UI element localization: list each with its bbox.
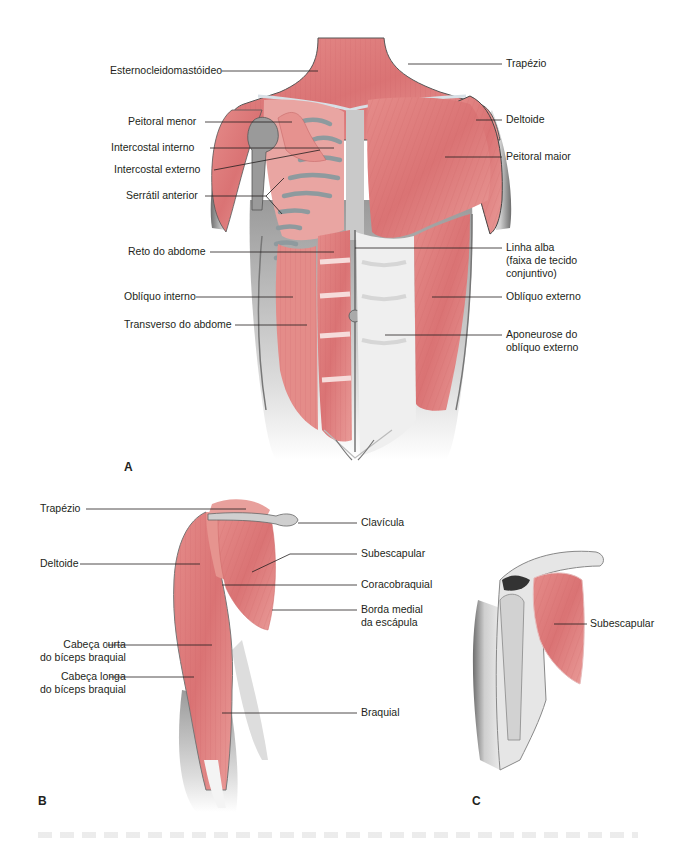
torso-figure — [211, 38, 511, 460]
label-borda-medial-line-2: da escápula — [361, 616, 423, 629]
label-borda-medial-escapula: Borda medial da escápula — [361, 603, 423, 629]
label-esternocleidomastoideo: Esternocleidomastóideo — [110, 64, 222, 77]
label-cabeca-longa-biceps: Cabeça longa do bíceps braquial — [40, 670, 126, 696]
label-braquial: Braquial — [361, 706, 400, 719]
label-trapezio-b: Trapézio — [40, 502, 80, 515]
label-intercostal-externo: Intercostal externo — [114, 163, 200, 176]
label-linha-alba: Linha alba (faixa de tecido conjuntivo) — [506, 241, 577, 280]
label-peitoral-maior: Peitoral maior — [506, 150, 571, 163]
label-aponeurose-line-1: Aponeurose do — [506, 328, 578, 341]
panel-label-b: B — [38, 794, 47, 808]
label-aponeurose-obliquo-externo: Aponeurose do oblíquo externo — [506, 328, 578, 354]
label-obliquo-interno: Oblíquo interno — [124, 290, 196, 303]
label-cabeca-longa-line-1: Cabeça longa — [40, 670, 126, 683]
label-peitoral-menor: Peitoral menor — [128, 115, 196, 128]
shoulder-figure — [473, 551, 604, 770]
label-clavicula: Clavícula — [361, 516, 404, 529]
label-cabeca-curta-line-2: do bíceps braquial — [40, 651, 126, 664]
label-transverso-do-abdome: Transverso do abdome — [124, 318, 232, 331]
panel-label-c: C — [472, 794, 481, 808]
label-coracobraquial: Coracobraquial — [361, 578, 432, 591]
label-intercostal-interno: Intercostal interno — [111, 141, 194, 154]
label-borda-medial-line-1: Borda medial — [361, 603, 423, 616]
arm-figure — [174, 499, 298, 812]
figure-caption-faded — [38, 832, 638, 838]
label-cabeca-curta-biceps: Cabeça curta do bíceps braquial — [40, 638, 126, 664]
label-linha-alba-line-1: Linha alba — [506, 241, 577, 254]
anatomy-illustration — [0, 0, 681, 842]
label-serratil-anterior: Serrátil anterior — [126, 189, 198, 202]
label-deltoide-b: Deltoide — [40, 557, 79, 570]
label-cabeca-curta-line-1: Cabeça curta — [40, 638, 126, 651]
label-cabeca-longa-line-2: do bíceps braquial — [40, 683, 126, 696]
label-reto-do-abdome: Reto do abdome — [128, 245, 206, 258]
label-trapezio-a: Trapézio — [506, 57, 546, 70]
label-linha-alba-line-3: conjuntivo) — [506, 267, 577, 280]
label-subescapular-c: Subescapular — [590, 617, 654, 630]
label-linha-alba-line-2: (faixa de tecido — [506, 254, 577, 267]
label-aponeurose-line-2: oblíquo externo — [506, 341, 578, 354]
label-subescapular-b: Subescapular — [361, 547, 425, 560]
label-deltoide-a: Deltoide — [506, 113, 545, 126]
panel-label-a: A — [124, 460, 133, 474]
label-obliquo-externo: Oblíquo externo — [506, 290, 581, 303]
